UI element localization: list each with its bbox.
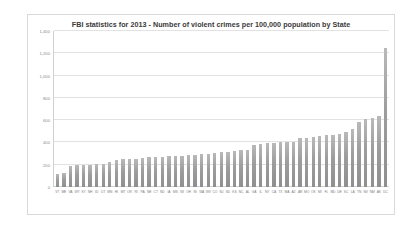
bar	[82, 165, 85, 187]
bar	[226, 152, 229, 187]
bar	[88, 165, 91, 187]
chart-frame: FBI statistics for 2013 - Number of viol…	[27, 14, 395, 215]
x-tick-label: NY	[265, 190, 269, 194]
x-tick-label: FL	[325, 190, 329, 194]
x-tick-label: KS	[232, 190, 236, 194]
x-tick-label: NH	[88, 190, 93, 194]
x-tick-label: IN	[194, 190, 197, 194]
bar	[233, 151, 236, 187]
x-tick-label: MI	[318, 190, 321, 194]
x-tick-label: MS	[173, 190, 178, 194]
x-tick-label: HI	[115, 190, 118, 194]
x-tick-label: AR	[298, 190, 302, 194]
y-axis-tick-labels: 02004006008001,0001,2001,400	[28, 31, 53, 187]
x-tick-label: ID	[95, 190, 98, 194]
bar	[239, 150, 242, 187]
bar	[325, 135, 328, 187]
y-tick-label: 400	[43, 140, 50, 145]
bar	[193, 155, 196, 187]
x-tick-label: VA	[68, 190, 72, 194]
x-tick-label: ME	[61, 190, 66, 194]
bar-series	[54, 31, 389, 187]
screenshot-page: FBI statistics for 2013 - Number of viol…	[0, 0, 412, 227]
bar	[220, 152, 223, 187]
bar	[115, 160, 118, 187]
bar	[351, 129, 354, 187]
bar	[207, 154, 210, 187]
x-tick-label: NV	[364, 190, 368, 194]
bar	[62, 173, 65, 187]
x-tick-label: DC	[383, 190, 388, 194]
bar	[305, 138, 308, 187]
bar	[56, 174, 59, 187]
y-tick-label: 0	[48, 185, 50, 190]
bar	[174, 156, 177, 187]
bar	[298, 138, 301, 187]
x-tick-label: NC	[239, 190, 244, 194]
chart-title: FBI statistics for 2013 - Number of viol…	[28, 20, 394, 29]
bar	[246, 150, 249, 187]
x-tick-label: AK	[377, 190, 381, 194]
y-tick-label: 1,400	[40, 29, 50, 34]
x-tick-label: WA	[199, 190, 204, 194]
x-tick-label: OK	[311, 190, 316, 194]
bar	[384, 48, 387, 187]
x-axis-tick-labels: VTMEVAWYKYNHIDUTMNHIMTORRIPANECTNDIAMSWI…	[54, 190, 389, 206]
bar	[128, 159, 131, 187]
x-tick-label: MN	[107, 190, 112, 194]
x-tick-label: NE	[147, 190, 151, 194]
bar	[357, 122, 360, 187]
x-tick-label: CT	[154, 190, 158, 194]
bar	[266, 143, 269, 187]
x-tick-label: ND	[160, 190, 165, 194]
x-tick-label: MO	[304, 190, 309, 194]
x-tick-label: NM	[370, 190, 375, 194]
bar	[318, 136, 321, 187]
bar	[259, 144, 262, 187]
x-tick-label: TN	[357, 190, 361, 194]
bar	[95, 164, 98, 187]
bar	[252, 145, 255, 187]
x-tick-label: UT	[101, 190, 105, 194]
bar	[279, 142, 282, 187]
bar	[200, 154, 203, 187]
x-tick-label: IA	[167, 190, 170, 194]
bar	[371, 118, 374, 187]
bar	[344, 132, 347, 187]
x-tick-label: TX	[278, 190, 282, 194]
bar	[292, 142, 295, 187]
bar	[213, 153, 216, 187]
y-tick-label: 1,200	[40, 51, 50, 56]
bar	[285, 142, 288, 187]
x-tick-label: GA	[252, 190, 257, 194]
bar	[272, 143, 275, 187]
x-tick-label: NJ	[219, 190, 223, 194]
x-tick-label: SC	[344, 190, 348, 194]
bar	[312, 137, 315, 187]
bar	[75, 165, 78, 187]
bar	[338, 134, 341, 187]
bar	[167, 156, 170, 187]
y-tick-label: 1,000	[40, 73, 50, 78]
x-tick-label: SD	[226, 190, 230, 194]
plot-area	[54, 31, 389, 187]
bar	[154, 157, 157, 187]
x-tick-label: CO	[212, 190, 217, 194]
x-tick-label: WI	[180, 190, 184, 194]
x-tick-label: AL	[246, 190, 250, 194]
bar	[69, 166, 72, 187]
bar	[147, 157, 150, 187]
bar	[141, 158, 144, 187]
y-tick-label: 200	[43, 162, 50, 167]
bar	[134, 159, 137, 187]
y-tick-label: 800	[43, 95, 50, 100]
x-tick-label: CA	[272, 190, 276, 194]
x-tick-label: OH	[186, 190, 191, 194]
x-tick-label: IL	[259, 190, 262, 194]
x-tick-label: KY	[81, 190, 85, 194]
x-tick-label: AZ	[292, 190, 296, 194]
bar	[102, 164, 105, 187]
bar-slot	[382, 31, 389, 187]
x-tick-label: WY	[74, 190, 79, 194]
x-tick-label: LA	[351, 190, 355, 194]
